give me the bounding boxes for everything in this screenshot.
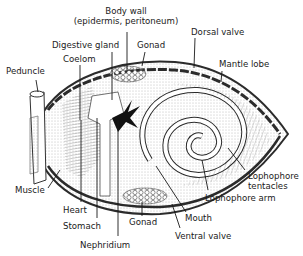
peduncle-shape	[30, 91, 46, 184]
gonad-bottom-shape	[123, 188, 167, 204]
label-nephridium: Nephridium	[80, 240, 130, 250]
label-peduncle: Peduncle	[6, 66, 45, 76]
label-digestive-gland: Digestive gland	[52, 40, 119, 50]
label-muscle: Muscle	[15, 185, 45, 195]
label-heart: Heart	[63, 205, 87, 215]
label-ventral-valve: Ventral valve	[175, 231, 231, 241]
label-lophophore-arm: Lophophore arm	[205, 193, 276, 203]
label-body-wall-line1: Body wall	[68, 6, 184, 16]
label-coelom: Coelom	[63, 54, 96, 64]
gonad-top-shape	[110, 66, 146, 82]
label-gonad-top: Gonad	[137, 40, 165, 50]
label-stomach: Stomach	[63, 221, 101, 231]
label-lophophore-tentacles: Lophophore tentacles	[248, 171, 299, 191]
label-lophophore-tentacles-line1: Lophophore	[248, 171, 299, 181]
label-body-wall-line2: (epidermis, peritoneum)	[68, 16, 184, 26]
label-dorsal-valve: Dorsal valve	[191, 27, 244, 37]
brachiopod-diagram: Body wall (epidermis, peritoneum) Digest…	[0, 0, 303, 256]
label-body-wall: Body wall (epidermis, peritoneum)	[68, 6, 184, 26]
label-lophophore-tentacles-line2: tentacles	[248, 181, 299, 191]
label-mouth: Mouth	[185, 213, 212, 223]
label-mantle-lobe: Mantle lobe	[219, 59, 269, 69]
label-gonad-bottom: Gonad	[129, 217, 157, 227]
